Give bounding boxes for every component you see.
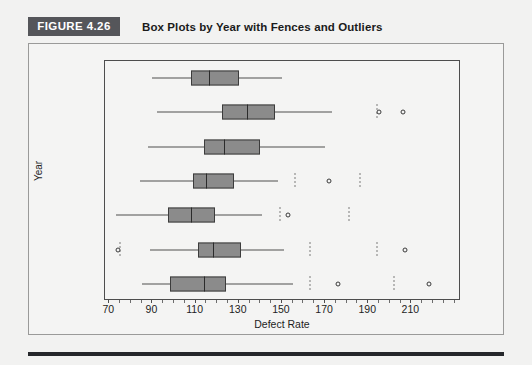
- box-rect: [191, 71, 238, 86]
- x-tick-label-70: 70: [102, 303, 114, 315]
- x-tick-label-170: 170: [315, 303, 333, 315]
- fence-marker: [348, 207, 349, 223]
- x-tick-minor: [119, 300, 120, 303]
- plot-area: [104, 60, 460, 300]
- x-tick-minor: [313, 300, 314, 303]
- x-tick-minor: [173, 300, 174, 303]
- x-tick-minor: [421, 300, 422, 303]
- median-line: [204, 276, 205, 291]
- x-tick-minor: [184, 300, 185, 303]
- median-line: [191, 208, 192, 223]
- x-tick-minor: [302, 300, 303, 303]
- outlier-point: [336, 281, 341, 286]
- x-tick-minor: [249, 300, 250, 303]
- y-axis-title: Year: [33, 161, 44, 181]
- figure-title: Box Plots by Year with Fences and Outlie…: [142, 21, 382, 33]
- median-line: [209, 71, 210, 86]
- x-tick-label-210: 210: [402, 303, 420, 315]
- fence-marker: [394, 276, 395, 292]
- x-tick-minor: [454, 300, 455, 303]
- median-line: [213, 242, 214, 257]
- x-tick-minor: [130, 300, 131, 303]
- x-tick-label-110: 110: [186, 303, 203, 315]
- box-rect: [198, 242, 241, 257]
- outlier-point: [377, 110, 382, 115]
- x-axis-title: Defect Rate: [104, 318, 460, 330]
- boxplot-glyph-layer: [105, 61, 459, 299]
- x-tick-minor: [216, 300, 217, 303]
- box-rect: [193, 174, 234, 189]
- box-rect: [204, 139, 260, 154]
- outlier-point: [426, 281, 431, 286]
- median-line: [224, 139, 225, 154]
- median-line: [247, 105, 248, 120]
- x-tick-minor: [141, 300, 142, 303]
- fence-marker: [294, 173, 295, 189]
- outlier-point: [286, 213, 291, 218]
- bottom-rule: [28, 352, 504, 356]
- x-tick-minor: [346, 300, 347, 303]
- outlier-point: [400, 110, 405, 115]
- figure-number-badge: FIGURE 4.26: [28, 17, 120, 36]
- x-tick-minor: [270, 300, 271, 303]
- fence-marker: [309, 276, 310, 292]
- x-tick-label-90: 90: [146, 303, 158, 315]
- x-tick-label-190: 190: [358, 303, 376, 315]
- median-line: [206, 174, 207, 189]
- x-tick-label-150: 150: [272, 303, 290, 315]
- outlier-point: [402, 247, 407, 252]
- x-tick-minor: [378, 300, 379, 303]
- x-tick-minor: [227, 300, 228, 303]
- x-tick-minor: [292, 300, 293, 303]
- x-tick-minor: [389, 300, 390, 303]
- x-tick-minor: [443, 300, 444, 303]
- outlier-point: [115, 247, 120, 252]
- x-tick-minor: [162, 300, 163, 303]
- fence-marker: [376, 242, 377, 258]
- x-tick-label-130: 130: [229, 303, 247, 315]
- fence-marker: [359, 173, 360, 189]
- x-tick-minor: [205, 300, 206, 303]
- x-tick-minor: [432, 300, 433, 303]
- x-tick-minor: [400, 300, 401, 303]
- x-tick-minor: [259, 300, 260, 303]
- figure-header: FIGURE 4.26Box Plots by Year with Fences…: [28, 17, 504, 37]
- fence-marker: [279, 207, 280, 223]
- fence-marker: [309, 242, 310, 258]
- outlier-point: [327, 179, 332, 184]
- box-rect: [222, 105, 276, 120]
- x-tick-minor: [335, 300, 336, 303]
- x-tick-minor: [356, 300, 357, 303]
- box-rect: [170, 276, 226, 291]
